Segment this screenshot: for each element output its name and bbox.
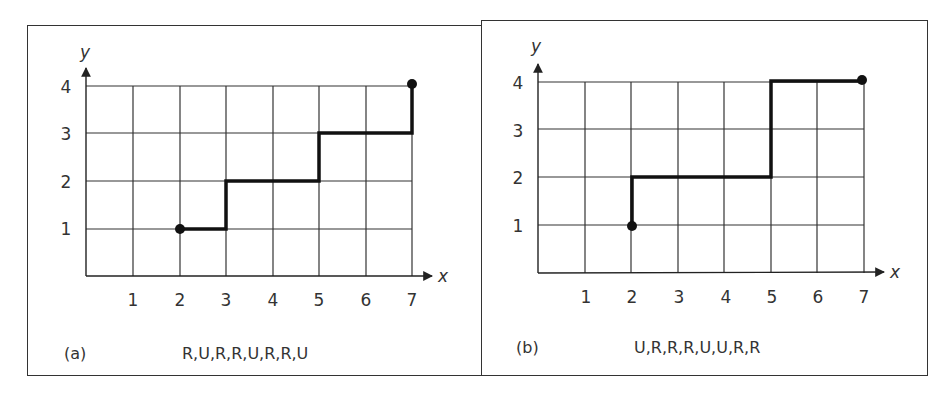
panel-b-y-label: y <box>530 36 542 56</box>
svg-text:1: 1 <box>128 290 139 310</box>
panel-b-path-code: U,R,R,R,U,U,R,R <box>634 338 760 357</box>
svg-text:2: 2 <box>513 168 524 188</box>
svg-text:4: 4 <box>61 77 72 97</box>
panel-a-y-label: y <box>79 42 91 62</box>
panel-b-x-axis <box>538 272 884 273</box>
svg-text:3: 3 <box>61 124 72 144</box>
svg-text:1: 1 <box>513 216 524 236</box>
svg-text:3: 3 <box>674 287 685 307</box>
panel-a-start-dot <box>175 224 185 234</box>
svg-text:2: 2 <box>61 172 72 192</box>
panel-b-x-ticks: 1 2 3 4 5 6 7 <box>581 287 870 307</box>
svg-text:2: 2 <box>175 290 186 310</box>
svg-text:1: 1 <box>581 287 592 307</box>
panel-a-y-ticks: 1 2 3 4 <box>61 77 72 239</box>
panel-b-label: (b) <box>516 338 539 357</box>
panel-a-path-code: R,U,R,R,U,R,R,U <box>182 344 308 363</box>
panel-b-path <box>632 81 862 226</box>
panel-a-label: (a) <box>64 344 86 363</box>
svg-text:3: 3 <box>513 121 524 141</box>
svg-text:5: 5 <box>314 290 325 310</box>
svg-text:6: 6 <box>813 287 824 307</box>
svg-text:7: 7 <box>859 287 870 307</box>
svg-text:4: 4 <box>721 287 732 307</box>
panel-a-x-ticks: 1 2 3 4 5 6 7 <box>128 290 418 310</box>
svg-text:5: 5 <box>767 287 778 307</box>
panel-a-path <box>180 86 412 229</box>
lattice-path-figure: x y 1 2 3 4 5 6 7 1 2 3 4 (a) R,U,R,R,U,… <box>0 0 950 394</box>
panel-b-start-dot <box>627 221 637 231</box>
svg-text:6: 6 <box>361 290 372 310</box>
panel-b-x-label: x <box>889 262 901 282</box>
svg-text:7: 7 <box>407 290 418 310</box>
svg-text:2: 2 <box>627 287 638 307</box>
svg-text:3: 3 <box>221 290 232 310</box>
panel-b-y-ticks: 1 2 3 4 <box>513 73 524 236</box>
panel-a-x-label: x <box>437 266 449 286</box>
svg-text:4: 4 <box>513 73 524 93</box>
svg-text:4: 4 <box>268 290 279 310</box>
panel-b-end-dot <box>857 75 867 85</box>
panel-a-end-dot <box>407 79 417 89</box>
svg-text:1: 1 <box>61 219 72 239</box>
